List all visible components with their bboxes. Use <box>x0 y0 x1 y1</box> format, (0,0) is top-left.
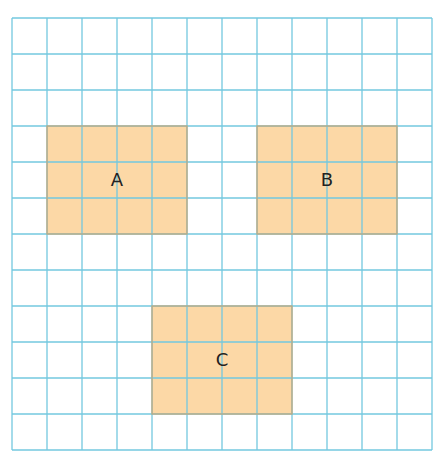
grid-diagram: ABC <box>0 0 433 467</box>
rectangle-label-c: C <box>216 349 229 370</box>
rectangle-label-a: A <box>111 169 124 190</box>
rectangle-label-b: B <box>321 169 333 190</box>
